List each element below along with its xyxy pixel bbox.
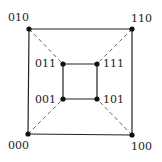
node-label-110: 110 bbox=[131, 13, 152, 24]
node-dot-101 bbox=[94, 96, 99, 101]
node-label-111: 111 bbox=[103, 58, 124, 69]
hypercube-diagram: 000 100 010 110 001 101 011 111 bbox=[0, 0, 162, 162]
node-label-001: 001 bbox=[35, 94, 56, 105]
node-label-000: 000 bbox=[8, 140, 29, 151]
node-label-101: 101 bbox=[103, 94, 124, 105]
node-dot-001 bbox=[60, 96, 65, 101]
node-label-100: 100 bbox=[131, 141, 152, 152]
node-label-010: 010 bbox=[8, 12, 29, 23]
edge-000-100 bbox=[28, 134, 132, 135]
node-dot-010 bbox=[26, 26, 31, 31]
node-dot-110 bbox=[129, 26, 134, 31]
node-label-011: 011 bbox=[35, 58, 56, 69]
node-dot-000 bbox=[25, 131, 30, 136]
node-dot-011 bbox=[60, 61, 65, 66]
edge-010-000 bbox=[28, 29, 29, 134]
node-dot-111 bbox=[94, 61, 99, 66]
node-dot-100 bbox=[129, 132, 134, 137]
